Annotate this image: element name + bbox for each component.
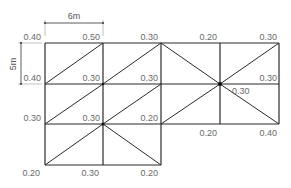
diagonal: [45, 124, 103, 165]
node-label: 0.50: [82, 32, 100, 42]
dimension-tick-icon: [44, 22, 46, 24]
node-label: 0.30: [23, 113, 41, 123]
dimension-tick-icon: [20, 83, 22, 85]
node-label: 0.20: [140, 113, 158, 123]
grid-lines: [45, 43, 279, 165]
triangulated-grid-diagram: 6m 5m: [0, 0, 291, 188]
node-label: 0.30: [259, 73, 277, 83]
node-label: 0.20: [199, 128, 217, 138]
node-labels-row0: 0.40 0.50 0.30 0.20 0.30: [23, 32, 277, 42]
node-marker-icon: [102, 123, 105, 126]
node-label: 0.20: [22, 168, 40, 178]
node-label: 0.30: [140, 32, 158, 42]
node-label: 0.40: [23, 73, 41, 83]
node-label: 0.20: [140, 168, 158, 178]
node-label: 0.30: [140, 73, 158, 83]
node-marker-icon: [218, 82, 222, 86]
node-label: 0.40: [259, 128, 277, 138]
node-labels-row3: 0.20 0.30 0.20: [22, 168, 158, 178]
dimension-tick-icon: [102, 22, 104, 24]
node-label: 0.30: [82, 73, 100, 83]
node-label: 0.30: [232, 86, 250, 96]
diagonal: [161, 43, 220, 84]
dimension-label-5m: 5m: [8, 58, 18, 71]
node-label: 0.20: [199, 32, 217, 42]
dimension-tick-icon: [20, 42, 22, 44]
diagonal: [161, 84, 220, 124]
node-label: 0.40: [23, 32, 41, 42]
node-marker-icon: [102, 83, 104, 85]
diagonal: [103, 124, 161, 165]
node-label: 0.30: [259, 32, 277, 42]
dimension-label-6m: 6m: [68, 11, 81, 21]
node-labels-row2: 0.30 0.30 0.20 0.20 0.40: [23, 113, 277, 138]
triangulation-diagonals: [45, 43, 279, 165]
node-label: 0.30: [81, 168, 99, 178]
node-label: 0.30: [82, 113, 100, 123]
